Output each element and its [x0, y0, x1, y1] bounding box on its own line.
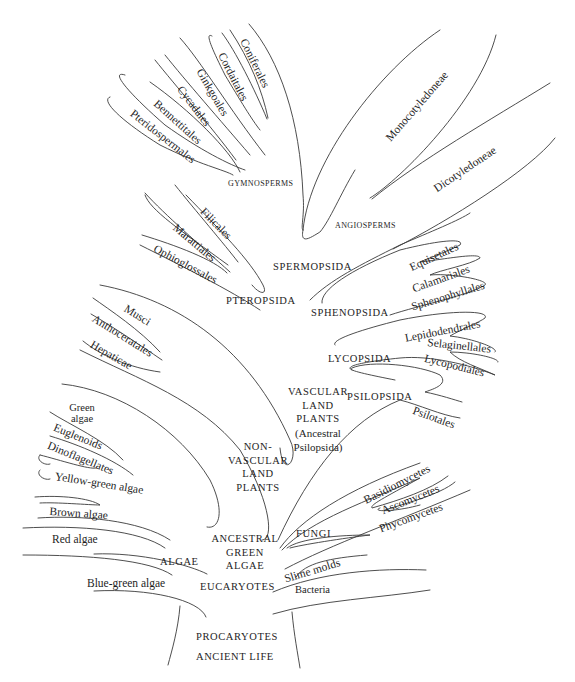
- bacteria-label: Bacteria: [295, 585, 330, 596]
- ancient-life-label: ANCIENT LIFE: [196, 650, 274, 664]
- vascular-line-4: (Ancestral: [276, 426, 360, 440]
- procaryotes-label: PROCARYOTES: [196, 630, 278, 644]
- ancestral-green-algae-line-1: ANCESTRAL: [205, 532, 285, 546]
- angiosperm-monocot-outer: [303, 30, 440, 230]
- eucaryotes-label: EUCARYOTES: [200, 580, 275, 594]
- gymnosperms-label: GYMNOSPERMS: [228, 180, 293, 188]
- green-algae-label: Green algae: [62, 402, 102, 424]
- non-vascular-line-2: VASCULAR: [218, 454, 298, 468]
- blue-green-algae-label: Blue-green algae: [87, 578, 165, 590]
- spermopsida-label: SPERMOPSIDA: [273, 260, 352, 274]
- angiosperms-label: ANGIOSPERMS: [335, 222, 396, 230]
- blue-green-algae-lower: [94, 591, 206, 617]
- pteropsida-label: PTEROPSIDA: [226, 294, 296, 308]
- angiosperm-dicot-upper: [372, 83, 550, 199]
- non-vascular-line-3: LAND: [218, 467, 298, 481]
- vascular-line-3: PLANTS: [276, 412, 360, 426]
- brown-algae-loop: [35, 496, 100, 505]
- phylogenetic-tree-diagram: PROCARYOTES ANCIENT LIFE Blue-green alga…: [0, 0, 575, 682]
- angiosperm-monocot-inner: [370, 35, 496, 198]
- green-algae-line-2: algae: [62, 413, 102, 424]
- vascular-line-5: Psilopsida): [276, 440, 360, 454]
- yellow-green-loop-2: [39, 470, 50, 479]
- trunk-right-line: [292, 612, 300, 668]
- psilopsida-label: PSILOPSIDA: [347, 390, 413, 404]
- ancestral-green-algae-line-3: ALGAE: [205, 559, 285, 573]
- sphenopsida-label: SPHENOPSIDA: [311, 306, 389, 320]
- trunk-left-line: [168, 606, 180, 665]
- non-vascular-line-4: PLANTS: [218, 481, 298, 495]
- fungi-label: FUNGI: [296, 527, 331, 541]
- lycopsida-label: LYCOPSIDA: [328, 352, 391, 366]
- algae-label: ALGAE: [160, 555, 199, 569]
- red-algae-label: Red algae: [52, 534, 98, 546]
- green-algae-line-1: Green: [62, 402, 102, 413]
- ancestral-green-algae-line-2: GREEN: [205, 546, 285, 560]
- ancestral-green-algae-label: ANCESTRAL GREEN ALGAE: [205, 532, 285, 573]
